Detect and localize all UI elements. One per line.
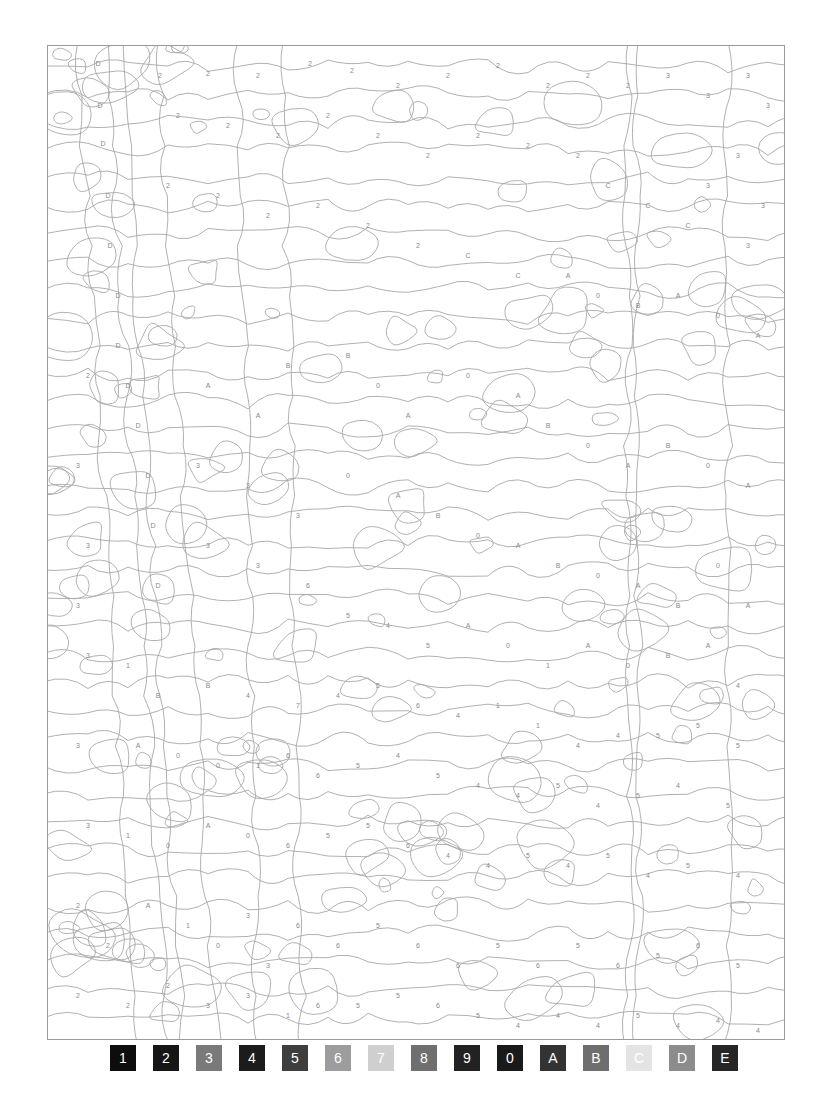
region-label: 4 bbox=[736, 682, 740, 689]
legend-swatch-4[interactable]: 4 bbox=[239, 1045, 265, 1071]
region-label: 2 bbox=[266, 212, 270, 219]
region-label: 3 bbox=[86, 652, 90, 659]
region-label: 0 bbox=[246, 832, 250, 839]
region-label: 4 bbox=[576, 742, 580, 749]
region-label: B bbox=[346, 352, 351, 359]
legend-swatch-d[interactable]: D bbox=[669, 1045, 695, 1071]
region-label: A bbox=[396, 492, 401, 499]
region-label: A bbox=[706, 642, 711, 649]
region-label: 2 bbox=[86, 372, 90, 379]
region-label: 0 bbox=[706, 462, 710, 469]
region-label: A bbox=[746, 482, 751, 489]
region-label: C bbox=[605, 182, 610, 189]
region-label: 3 bbox=[706, 182, 710, 189]
region-label: B bbox=[666, 442, 671, 449]
region-label: 5 bbox=[686, 862, 690, 869]
region-label: 6 bbox=[316, 1002, 320, 1009]
legend-swatch-9[interactable]: 9 bbox=[454, 1045, 480, 1071]
legend-swatch-5[interactable]: 5 bbox=[282, 1045, 308, 1071]
region-label: 1 bbox=[286, 1012, 290, 1019]
region-label: 4 bbox=[676, 1022, 680, 1029]
region-label: 5 bbox=[606, 852, 610, 859]
legend-swatch-6[interactable]: 6 bbox=[325, 1045, 351, 1071]
region-label: 2 bbox=[326, 112, 330, 119]
region-label: 2 bbox=[316, 202, 320, 209]
region-label: D bbox=[107, 242, 112, 249]
region-label: 4 bbox=[596, 802, 600, 809]
region-label: 5 bbox=[656, 732, 660, 739]
region-label: 0 bbox=[586, 442, 590, 449]
region-label: 6 bbox=[286, 752, 290, 759]
region-label: 1 bbox=[536, 722, 540, 729]
legend-swatch-b[interactable]: B bbox=[583, 1045, 609, 1071]
region-label: 0 bbox=[506, 642, 510, 649]
region-label: 5 bbox=[726, 802, 730, 809]
region-label: 2 bbox=[216, 192, 220, 199]
region-label: A bbox=[756, 332, 761, 339]
region-label: 0 bbox=[216, 762, 220, 769]
region-label: B bbox=[666, 652, 671, 659]
region-label: D bbox=[135, 422, 140, 429]
region-label: 2 bbox=[476, 132, 480, 139]
legend-swatch-e[interactable]: E bbox=[712, 1045, 738, 1071]
legend-swatch-1[interactable]: 1 bbox=[110, 1045, 136, 1071]
legend-swatch-2[interactable]: 2 bbox=[153, 1045, 179, 1071]
region-label: 2 bbox=[308, 60, 312, 67]
region-label: 4 bbox=[446, 852, 450, 859]
region-label: 4 bbox=[396, 752, 400, 759]
region-label: 4 bbox=[516, 1022, 520, 1029]
region-label: 7 bbox=[296, 702, 300, 709]
region-label: 6 bbox=[696, 942, 700, 949]
region-label: 5 bbox=[366, 822, 370, 829]
region-label: 0 bbox=[166, 842, 170, 849]
region-label: 2 bbox=[256, 72, 260, 79]
region-label: 5 bbox=[426, 642, 430, 649]
region-label: A bbox=[516, 392, 521, 399]
region-label: 4 bbox=[756, 1027, 760, 1034]
region-label: 6 bbox=[456, 962, 460, 969]
region-label: 5 bbox=[656, 952, 660, 959]
region-label: 6 bbox=[296, 922, 300, 929]
region-label: 2 bbox=[526, 142, 530, 149]
region-label: 5 bbox=[636, 1012, 640, 1019]
region-label: 4 bbox=[476, 782, 480, 789]
region-label: 4 bbox=[556, 1012, 560, 1019]
region-label: A bbox=[746, 602, 751, 609]
region-label: 2 bbox=[166, 982, 170, 989]
region-label: 0 bbox=[626, 662, 630, 669]
region-label: 5 bbox=[476, 1012, 480, 1019]
region-label: B bbox=[436, 512, 441, 519]
legend-swatch-0[interactable]: 0 bbox=[497, 1045, 523, 1071]
region-label: 2 bbox=[76, 902, 80, 909]
coloring-canvas[interactable]: DDD22222222222333333222222222CCC33DDD222… bbox=[47, 45, 785, 1040]
region-label: 3 bbox=[736, 152, 740, 159]
region-label: 2 bbox=[576, 152, 580, 159]
region-label: 2 bbox=[426, 152, 430, 159]
region-label: 2 bbox=[546, 82, 550, 89]
region-label: 4 bbox=[736, 872, 740, 879]
region-label: A bbox=[256, 412, 261, 419]
region-label: 0 bbox=[716, 312, 720, 319]
region-label: 4 bbox=[516, 792, 520, 799]
region-label: 1 bbox=[546, 662, 550, 669]
region-label: B bbox=[206, 682, 211, 689]
legend-swatch-c[interactable]: C bbox=[626, 1045, 652, 1071]
region-label: 6 bbox=[286, 842, 290, 849]
region-label: D bbox=[105, 192, 110, 199]
region-label: 5 bbox=[496, 942, 500, 949]
region-label: 5 bbox=[326, 832, 330, 839]
region-label: 2 bbox=[276, 132, 280, 139]
region-label: C bbox=[645, 202, 650, 209]
region-label: D bbox=[95, 60, 100, 67]
legend-swatch-7[interactable]: 7 bbox=[368, 1045, 394, 1071]
region-label: 0 bbox=[596, 292, 600, 299]
region-label: C bbox=[515, 272, 520, 279]
region-label: 3 bbox=[76, 462, 80, 469]
region-label: 2 bbox=[366, 222, 370, 229]
legend-swatch-a[interactable]: A bbox=[540, 1045, 566, 1071]
legend-swatch-8[interactable]: 8 bbox=[411, 1045, 437, 1071]
legend-swatch-3[interactable]: 3 bbox=[196, 1045, 222, 1071]
region-label: 1 bbox=[126, 832, 130, 839]
region-label: 2 bbox=[446, 72, 450, 79]
region-label: 2 bbox=[176, 112, 180, 119]
